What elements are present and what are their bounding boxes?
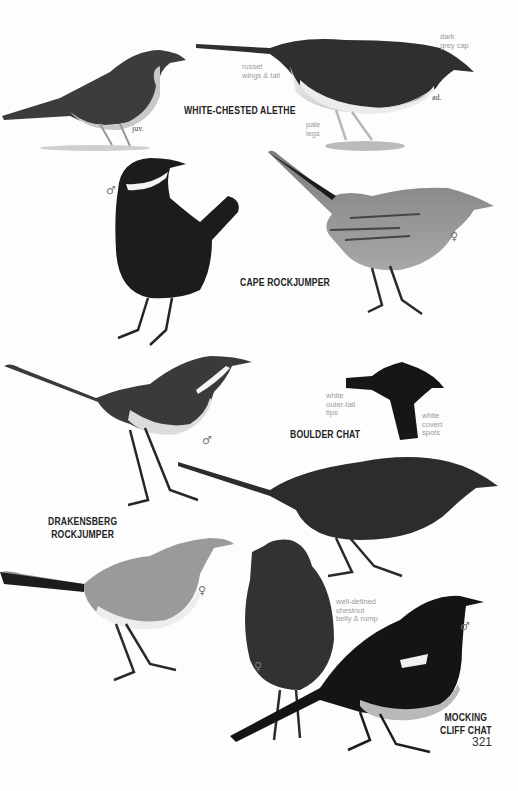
species-label-cape-rockjumper: CAPE ROCKJUMPER [240, 276, 330, 289]
species-label-drakensberg-rockjumper: DRAKENSBERG ROCKJUMPER [48, 515, 117, 541]
species-label-line-2: ROCKJUMPER [48, 528, 117, 541]
drakensberg-rockjumper-male-figure [4, 356, 252, 505]
species-label-white-chested-alethe: WHITE-CHESTED ALETHE [184, 104, 296, 117]
note-russet-wings-tail: russet wings & tail [242, 63, 280, 80]
age-label-adult: ad. [432, 93, 442, 102]
field-guide-page: WHITE-CHESTED ALETHE juv. ad. russet win… [0, 0, 518, 791]
species-label-line-1: MOCKING [440, 711, 492, 724]
drakensberg-rockjumper-female-figure [0, 538, 234, 680]
sex-symbol-female-drakensberg: ♀ [198, 584, 206, 597]
cape-rockjumper-female-figure [268, 151, 494, 314]
sex-symbol-male-mocking: ♂ [460, 620, 470, 633]
alethe-juvenile-figure [2, 50, 186, 151]
age-label-juvenile: juv. [132, 124, 144, 133]
note-pale-legs: pale legs [306, 121, 320, 138]
sex-symbol-male-cape: ♂ [106, 184, 116, 197]
sex-symbol-male-drakensberg: ♂ [202, 434, 212, 447]
note-well-defined-chestnut-belly-rump: well-defined chestnut belly & rump [336, 598, 378, 624]
cape-rockjumper-male-figure [115, 158, 239, 345]
note-white-outer-tail-tips: white outer-tail tips [326, 392, 355, 418]
note-dark-grey-cap: dark grey cap [440, 33, 469, 50]
page-number: 321 [472, 735, 492, 749]
cliff-chat-dark-figure [178, 457, 498, 576]
species-label-mocking-cliff-chat: MOCKING CLIFF CHAT [440, 711, 492, 737]
note-white-covert-spots: white covert spots [422, 412, 442, 438]
sex-symbol-female-mocking: ♀ [254, 660, 262, 673]
sex-symbol-female-cape: ♀ [450, 230, 458, 243]
species-label-boulder-chat: BOULDER CHAT [290, 428, 360, 441]
species-label-line-1: DRAKENSBERG [48, 515, 117, 528]
